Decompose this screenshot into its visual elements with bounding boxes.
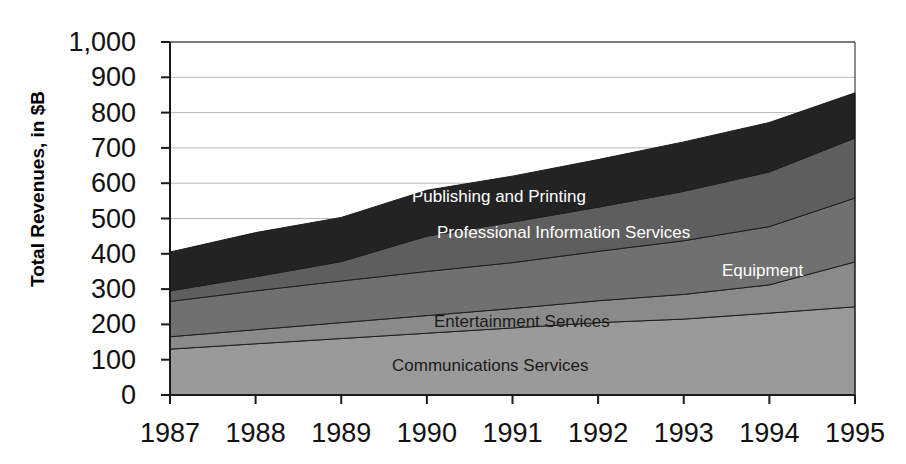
chart-container: Total Revenues, in $B 1,0009008007006005…	[0, 0, 906, 464]
series-label: Publishing and Printing	[412, 188, 586, 205]
series-label: Equipment	[722, 262, 803, 279]
x-tick-label: 1995	[825, 420, 885, 447]
x-tick-label: 1988	[226, 420, 286, 447]
x-tick-label: 1991	[482, 420, 542, 447]
x-tick-label: 1994	[739, 420, 799, 447]
x-tick-label: 1992	[568, 420, 628, 447]
x-tick-label: 1987	[140, 420, 200, 447]
series-label: Communications Services	[392, 357, 589, 374]
series-label: Entertainment Services	[434, 313, 610, 330]
series-label: Professional Information Services	[437, 224, 690, 241]
x-tick-label: 1989	[311, 420, 371, 447]
x-tick-label: 1990	[397, 420, 457, 447]
x-tick-label: 1993	[654, 420, 714, 447]
